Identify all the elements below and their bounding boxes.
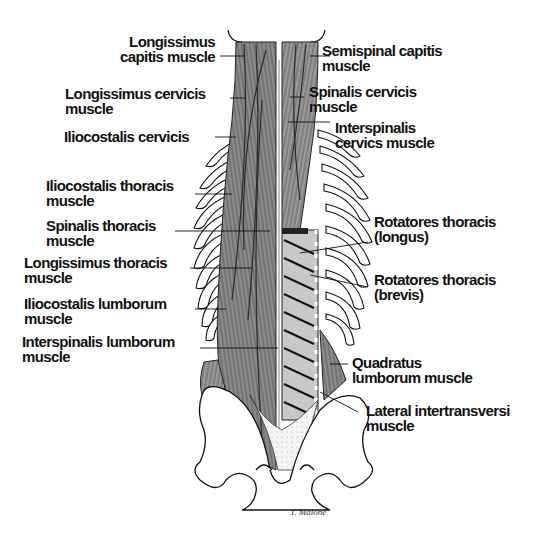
label-line: muscle [24,270,167,285]
label-iliocostalis-lumborum: Iliocostalis lumborum muscle [24,296,166,326]
ribs-right [318,130,372,345]
label-line: lumborum muscle [352,370,472,385]
skull-outline-left [228,30,242,42]
quadratus-lumborum-right [320,330,346,400]
label-rotatores-thoracis-brevis: Rotatores thoracis (brevis) [374,272,496,302]
label-line: Iliocostalis thoracis [46,178,173,193]
label-longissimus-cervicis: Longissimus cervicis muscle [65,86,206,116]
label-line: Longissimus cervicis [65,86,206,101]
label-line: muscle [24,311,166,326]
label-line: Lateral intertransversi [366,403,510,418]
label-line: muscle [366,418,510,433]
label-iliocostalis-thoracis: Iliocostalis thoracis muscle [46,178,173,208]
label-line: muscle [46,233,156,248]
rotatores-band [282,228,308,234]
label-line: Quadratus [352,355,472,370]
label-line: muscle [65,101,206,116]
label-line: Interspinalis [335,120,434,135]
label-semispinal-capitis: Semispinal capitis muscle [322,43,442,73]
label-line: Rotatores thoracis [374,272,496,287]
label-line: Interspinalis lumborum [22,334,175,349]
label-line: Rotatores thoracis [374,214,496,229]
label-spinalis-thoracis: Spinalis thoracis muscle [46,218,156,248]
label-line: (longus) [374,229,496,244]
label-line: muscle [309,99,416,114]
label-interspinalis-lumborum: Interspinalis lumborum muscle [22,334,175,364]
label-line: Longissimus thoracis [24,255,167,270]
label-line: muscle [22,349,175,364]
label-longissimus-capitis: Longissimus capitis muscle [103,34,215,64]
label-line: Spinalis cervicis [309,84,416,99]
skull-outline-right [311,30,325,42]
label-spinalis-cervicis: Spinalis cervicis muscle [309,84,416,114]
label-line: cervics muscle [335,135,434,150]
label-rotatores-thoracis-longus: Rotatores thoracis (longus) [374,214,496,244]
erector-spinae-right-upper [282,42,318,230]
label-line: (brevis) [374,287,496,302]
label-line: Iliocostalis lumborum [24,296,166,311]
label-interspinalis-cervics: Interspinalis cervics muscle [335,120,434,150]
label-iliocostalis-cervicis: Iliocostalis cervicis [64,129,189,144]
label-line: muscle [322,58,442,73]
label-line: Iliocostalis cervicis [64,129,189,144]
label-lateral-intertransversi: Lateral intertransversi muscle [366,403,510,433]
label-longissimus-thoracis: Longissimus thoracis muscle [24,255,167,285]
label-line: Spinalis thoracis [46,218,156,233]
artist-signature: T. Malone [290,507,326,517]
label-line: capitis muscle [103,49,215,64]
label-line: muscle [46,193,173,208]
label-line: Longissimus [103,34,215,49]
label-quadratus-lumborum: Quadratus lumborum muscle [352,355,472,385]
label-line: Semispinal capitis [322,43,442,58]
